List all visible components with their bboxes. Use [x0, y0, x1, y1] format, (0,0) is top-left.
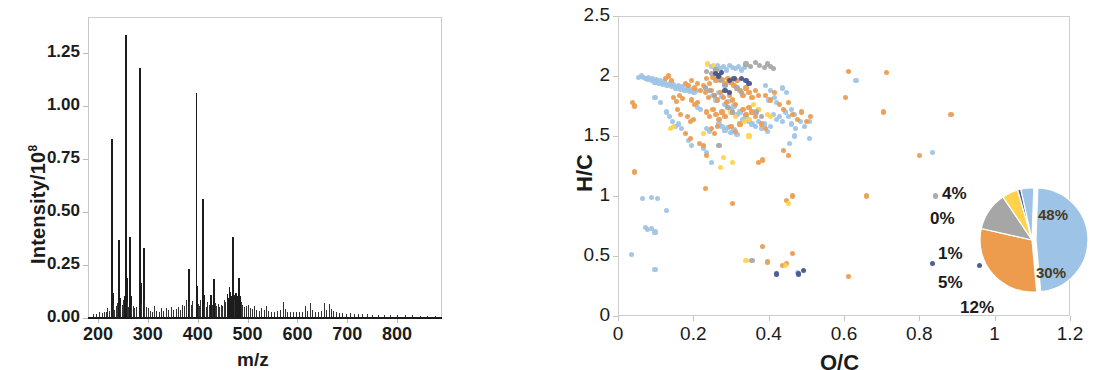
van-krevelen-point-blue — [792, 133, 797, 138]
van-krevelen-point-navy — [801, 268, 806, 273]
van-krevelen-point-blue — [753, 124, 758, 129]
van-krevelen-x-tick-label: 0 — [588, 323, 648, 345]
mass-spectrum-y-tick-mark — [83, 53, 88, 54]
van-krevelen-point-orange — [722, 114, 727, 119]
mass-spectrum-x-tick-mark — [198, 318, 199, 323]
mass-spectrum-x-tick-mark — [347, 318, 348, 323]
van-krevelen-point-blue — [658, 100, 663, 105]
van-krevelen-point-orange — [632, 169, 637, 174]
figure-root: Intensity/108 m/z 0.000.250.500.751.001.… — [0, 0, 1106, 370]
van-krevelen-y-tick-mark — [613, 136, 618, 137]
van-krevelen-y-tick-mark — [613, 196, 618, 197]
mass-spectrum-peak — [192, 301, 193, 318]
pie-slice-value-label: 48% — [1038, 206, 1068, 223]
pie-outside-value-label: 0% — [930, 209, 955, 229]
van-krevelen-y-tick-mark — [613, 256, 618, 257]
mass-spectrum-y-tick-label: 1.25 — [22, 42, 80, 62]
van-krevelen-point-blue — [652, 229, 657, 234]
van-krevelen-x-tick-label: 1.2 — [1040, 323, 1100, 345]
van-krevelen-point-yellow — [743, 258, 748, 263]
van-krevelen-point-blue — [853, 78, 858, 83]
pie-outside-value-label: 1% — [938, 244, 963, 264]
van-krevelen-point-orange — [760, 157, 765, 162]
mass-spectrum-x-axis-label: m/z — [237, 349, 269, 370]
van-krevelen-point-yellow — [718, 165, 723, 170]
van-krevelen-point-orange — [846, 274, 851, 279]
pie-slice-value-label: 30% — [1036, 264, 1066, 281]
mass-spectrum-x-tick-mark — [297, 318, 298, 323]
van-krevelen-point-orange — [728, 124, 733, 129]
van-krevelen-x-axis-label: O/C — [820, 350, 859, 370]
mass-spectrum-x-tick-mark — [248, 318, 249, 323]
van-krevelen-point-orange — [678, 112, 683, 117]
van-krevelen-point-orange — [790, 193, 795, 198]
pie-outside-value-label: 4% — [942, 184, 967, 204]
van-krevelen-x-tick-label: 0.8 — [889, 323, 949, 345]
van-krevelen-x-tick-label: 0.4 — [739, 323, 799, 345]
mass-spectrum-peak — [111, 139, 113, 318]
van-krevelen-point-gray — [716, 143, 721, 148]
van-krevelen-x-tick-label: 0.2 — [663, 323, 723, 345]
pie-outside-value-label: 5% — [938, 273, 963, 293]
van-krevelen-panel: H/C O/C 00.511.522.5 00.20.40.60.811.2 4… — [560, 0, 1106, 370]
van-krevelen-point-gray — [712, 93, 717, 98]
mass-spectrum-y-tick-mark — [83, 212, 88, 213]
van-krevelen-point-orange — [715, 124, 720, 129]
mass-spectrum-peak — [141, 304, 142, 318]
van-krevelen-y-tick-label: 1.5 — [566, 124, 610, 146]
van-krevelen-point-orange — [884, 70, 889, 75]
van-krevelen-x-tick-label: 0.6 — [814, 323, 874, 345]
van-krevelen-point-orange — [688, 136, 693, 141]
van-krevelen-y-tick-label: 0.5 — [566, 244, 610, 266]
van-krevelen-point-navy — [731, 76, 736, 81]
van-krevelen-point-orange — [917, 153, 922, 158]
van-krevelen-point-yellow — [746, 133, 751, 138]
van-krevelen-point-blue — [780, 119, 785, 124]
van-krevelen-point-blue — [664, 208, 669, 213]
mass-spectrum-y-tick-label: 0.75 — [22, 148, 80, 168]
van-krevelen-point-orange — [948, 112, 953, 117]
van-krevelen-point-blue — [640, 196, 645, 201]
mass-spectrum-y-tick-label: 0.50 — [22, 201, 80, 221]
mass-spectrum-peak — [200, 300, 201, 318]
van-krevelen-point-orange — [768, 97, 773, 102]
van-krevelen-point-orange — [795, 117, 800, 122]
pie-outside-value-label: 12% — [960, 298, 994, 318]
mass-spectrum-x-tick-mark — [98, 318, 99, 323]
van-krevelen-x-tick-mark — [618, 316, 619, 321]
van-krevelen-y-tick-label: 1 — [566, 184, 610, 206]
van-krevelen-point-yellow — [783, 263, 788, 268]
van-krevelen-x-tick-mark — [995, 316, 996, 321]
mass-spectrum-y-tick-mark — [83, 265, 88, 266]
van-krevelen-point-navy — [774, 271, 779, 276]
mass-spectrum-peak — [310, 303, 311, 318]
composition-pie-chart: 48%30% 4%0%1%5%12% — [920, 172, 1090, 312]
mass-spectrum-y-tick-label: 0.25 — [22, 254, 80, 274]
mass-spectrum-baseline — [88, 317, 442, 319]
van-krevelen-point-yellow — [730, 160, 735, 165]
van-krevelen-point-blue — [709, 160, 714, 165]
mass-spectrum-x-tick-label: 800 — [367, 324, 427, 345]
van-krevelen-point-blue — [807, 136, 812, 141]
van-krevelen-point-navy — [719, 70, 724, 75]
van-krevelen-x-tick-label: 1 — [965, 323, 1025, 345]
mass-spectrum-x-tick-mark — [397, 318, 398, 323]
van-krevelen-point-orange — [691, 117, 696, 122]
van-krevelen-y-tick-label: 2.5 — [566, 4, 610, 26]
mass-spectrum-peak — [329, 304, 330, 318]
van-krevelen-point-orange — [765, 259, 770, 264]
van-krevelen-point-blue — [652, 95, 657, 100]
van-krevelen-point-orange — [733, 129, 738, 134]
mass-spectrum-plot-frame — [88, 17, 442, 318]
van-krevelen-point-orange — [763, 93, 768, 98]
van-krevelen-point-yellow — [705, 61, 710, 66]
van-krevelen-point-orange — [716, 117, 721, 122]
van-krevelen-point-navy — [746, 81, 751, 86]
van-krevelen-point-orange — [786, 100, 791, 105]
van-krevelen-point-orange — [881, 109, 886, 114]
van-krevelen-point-blue — [649, 195, 654, 200]
van-krevelen-y-tick-mark — [613, 76, 618, 77]
van-krevelen-point-yellow — [786, 201, 791, 206]
van-krevelen-point-gray — [730, 109, 735, 114]
van-krevelen-x-tick-mark — [919, 316, 920, 321]
